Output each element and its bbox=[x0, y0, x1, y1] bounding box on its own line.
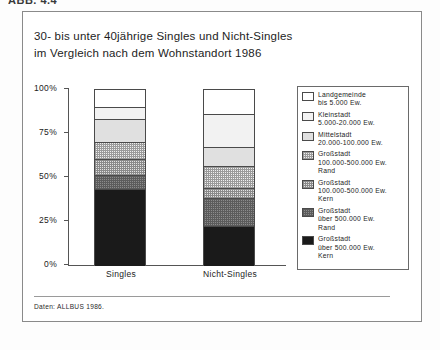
legend-label-name: Landgemeinde bbox=[318, 91, 366, 99]
legend-label-name: Großstadt bbox=[318, 207, 375, 215]
legend-label: Großstadt100.000-500.000 Ew.Rand bbox=[318, 150, 387, 175]
legend-label: Großstadtüber 500.000 Ew.Kern bbox=[318, 235, 375, 260]
bar-nicht-singles[interactable]: Nicht-Singles bbox=[203, 89, 255, 265]
y-tick-25: 25% bbox=[64, 220, 69, 221]
bar-segment[interactable] bbox=[95, 176, 145, 190]
legend-label: Mittelstadt20.000-100.000 Ew. bbox=[318, 131, 383, 148]
legend-label-name: Großstadt bbox=[318, 150, 387, 158]
bar-segment[interactable] bbox=[204, 189, 254, 200]
legend-label-name: Kleinstadt bbox=[318, 111, 375, 119]
legend-swatch-icon bbox=[302, 151, 314, 160]
legend-label-extra: Rand bbox=[318, 167, 387, 175]
legend-label: Großstadtüber 500.000 Ew.Rand bbox=[318, 207, 375, 232]
y-tick-100: 100% bbox=[64, 88, 69, 89]
footer-divider bbox=[34, 296, 390, 297]
y-tick-50: 50% bbox=[64, 176, 69, 177]
legend-item[interactable]: Mittelstadt20.000-100.000 Ew. bbox=[302, 131, 405, 148]
bar-segment[interactable] bbox=[95, 90, 145, 108]
legend-swatch-icon bbox=[302, 92, 314, 101]
bar-segment[interactable] bbox=[95, 120, 145, 143]
x-label-nicht-singles: Nicht-Singles bbox=[170, 269, 290, 279]
y-tick-label-75: 75% bbox=[39, 127, 57, 137]
legend-label-extra: Rand bbox=[318, 224, 375, 232]
legend-label-range: über 500.000 Ew. bbox=[318, 215, 375, 223]
legend-swatch-icon bbox=[302, 112, 314, 121]
x-label-singles: Singles bbox=[61, 269, 181, 279]
y-tick-label-50: 50% bbox=[39, 171, 57, 181]
legend-label-range: 20.000-100.000 Ew. bbox=[318, 139, 383, 147]
legend-swatch-icon bbox=[302, 132, 314, 141]
chart-title: 30- bis unter 40jährige Singles und Nich… bbox=[34, 28, 374, 62]
bar-singles[interactable]: Singles bbox=[94, 89, 146, 265]
bar-segment[interactable] bbox=[95, 108, 145, 120]
y-tick-label-25: 25% bbox=[39, 215, 57, 225]
legend-item[interactable]: Großstadt100.000-500.000 Ew.Rand bbox=[302, 150, 405, 175]
bar-segment[interactable] bbox=[204, 115, 254, 148]
legend-swatch-icon bbox=[302, 208, 314, 217]
legend-swatch-icon bbox=[302, 180, 314, 189]
legend-item[interactable]: Großstadtüber 500.000 Ew.Kern bbox=[302, 235, 405, 260]
chart-legend: Landgemeindebis 5.000 Ew.Kleinstadt5.000… bbox=[297, 86, 409, 270]
y-tick-75: 75% bbox=[64, 132, 69, 133]
chart-title-line-1: 30- bis unter 40jährige Singles und Nich… bbox=[34, 28, 374, 45]
legend-label-name: Großstadt bbox=[318, 235, 375, 243]
scanned-page: ABB. 4.4 30- bis unter 40jährige Singles… bbox=[0, 0, 440, 350]
legend-item[interactable]: Landgemeindebis 5.000 Ew. bbox=[302, 91, 405, 108]
y-tick-0: 0% bbox=[64, 264, 69, 265]
y-tick-label-0: 0% bbox=[44, 259, 57, 269]
chart-title-line-2: im Vergleich nach dem Wohnstandort 1986 bbox=[34, 45, 374, 62]
bar-segment[interactable] bbox=[204, 167, 254, 188]
legend-label-range: 100.000-500.000 Ew. bbox=[318, 187, 387, 195]
legend-label-name: Großstadt bbox=[318, 179, 387, 187]
legend-label: Landgemeindebis 5.000 Ew. bbox=[318, 91, 366, 108]
legend-label-range: 5.000-20.000 Ew. bbox=[318, 119, 375, 127]
plot-area: 100%75%50%25%0% Singles Nicht-Singles bbox=[68, 88, 286, 266]
legend-item[interactable]: Kleinstadt5.000-20.000 Ew. bbox=[302, 111, 405, 128]
legend-item[interactable]: Großstadtüber 500.000 Ew.Rand bbox=[302, 207, 405, 232]
legend-label: Großstadt100.000-500.000 Ew.Kern bbox=[318, 179, 387, 204]
bar-segment[interactable] bbox=[204, 90, 254, 115]
bar-segment[interactable] bbox=[204, 148, 254, 167]
legend-label-extra: Kern bbox=[318, 195, 387, 203]
legend-item[interactable]: Großstadt100.000-500.000 Ew.Kern bbox=[302, 179, 405, 204]
legend-label-name: Mittelstadt bbox=[318, 131, 383, 139]
legend-label-extra: Kern bbox=[318, 252, 375, 260]
y-tick-label-100: 100% bbox=[34, 83, 57, 93]
bar-segment[interactable] bbox=[95, 190, 145, 266]
bar-segment[interactable] bbox=[204, 199, 254, 227]
legend-label-range: über 500.000 Ew. bbox=[318, 244, 375, 252]
legend-swatch-icon bbox=[302, 236, 314, 245]
legend-label-range: 100.000-500.000 Ew. bbox=[318, 159, 387, 167]
cut-header-text: ABB. 4.4 bbox=[8, 0, 57, 4]
bar-segment[interactable] bbox=[204, 227, 254, 266]
legend-label-range: bis 5.000 Ew. bbox=[318, 99, 366, 107]
source-note: Daten: ALLBUS 1986. bbox=[34, 303, 104, 310]
bar-segment[interactable] bbox=[95, 160, 145, 176]
legend-label: Kleinstadt5.000-20.000 Ew. bbox=[318, 111, 375, 128]
bar-segment[interactable] bbox=[95, 143, 145, 161]
